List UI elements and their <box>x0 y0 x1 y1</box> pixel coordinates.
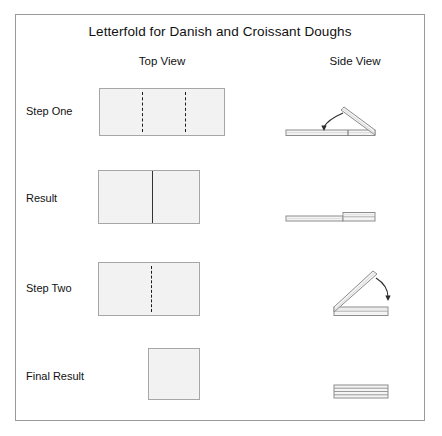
top-view-step-one <box>99 88 225 136</box>
dough-strip-double-layer <box>343 213 375 222</box>
column-header-top-view: Top View <box>99 55 225 67</box>
column-header-side-view: Side View <box>300 55 410 67</box>
dough-strip-base <box>286 130 375 136</box>
fold-arrow-icon <box>376 278 391 301</box>
dough-flap-raised <box>334 271 377 312</box>
fold-line-right <box>185 92 186 132</box>
top-view-result <box>98 170 200 224</box>
side-view-step-two <box>300 266 400 322</box>
dough-stack-four-layers <box>334 385 388 398</box>
dough-strip-single-layer <box>286 216 343 221</box>
diagram-title: Letterfold for Danish and Croissant Doug… <box>15 24 425 39</box>
crease-line-center <box>152 171 153 223</box>
fold-line-center <box>151 266 152 312</box>
side-view-final-result <box>300 382 400 402</box>
top-view-final-result <box>148 348 200 400</box>
side-view-step-one <box>280 96 390 144</box>
top-view-step-two <box>98 262 200 316</box>
diagram-canvas: Letterfold for Danish and Croissant Doug… <box>0 0 442 436</box>
fold-line-left <box>142 92 143 132</box>
row-label-final-result: Final Result <box>26 370 104 382</box>
row-label-step-two: Step Two <box>26 282 104 294</box>
row-label-step-one: Step One <box>26 105 104 117</box>
dough-strip-base-doubled <box>334 307 388 316</box>
row-label-result: Result <box>26 192 104 204</box>
fold-arrow-icon <box>321 113 343 131</box>
side-view-result <box>280 204 390 228</box>
